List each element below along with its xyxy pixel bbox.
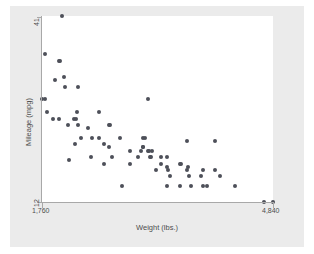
scatter-point	[143, 136, 147, 140]
scatter-point	[45, 110, 49, 114]
y-axis-tick-label-min: 12	[33, 199, 40, 207]
scatter-point	[213, 168, 217, 172]
scatter-point	[90, 136, 94, 140]
scatter-point	[108, 123, 112, 127]
scatter-point	[97, 110, 101, 114]
scatter-point	[97, 136, 101, 140]
y-axis-tick-label-max: 41	[33, 18, 40, 26]
scatter-point	[89, 155, 93, 159]
scatter-point	[139, 149, 143, 153]
scatter-point	[146, 97, 150, 101]
scatter-point	[73, 142, 77, 146]
scatter-point	[213, 139, 217, 143]
scatter-point	[154, 168, 158, 172]
scatter-point	[201, 184, 205, 188]
scatter-point	[205, 184, 209, 188]
scatter-point	[43, 97, 47, 101]
scatter-plot-screenshot: 41 12 1,760 4,840 Mileage (mpg) Weight (…	[0, 0, 314, 254]
scatter-point	[102, 142, 106, 146]
scatter-point	[118, 136, 122, 140]
scatter-point	[159, 162, 163, 166]
scatter-point	[62, 75, 66, 79]
scatter-point	[165, 184, 169, 188]
scatter-point	[233, 184, 237, 188]
x-axis-tick-label-max: 4,840	[262, 207, 280, 214]
scatter-point	[110, 155, 114, 159]
scatter-point	[76, 123, 80, 127]
scatter-point	[58, 59, 62, 63]
scatter-point	[66, 123, 70, 127]
scatter-point	[185, 168, 189, 172]
scatter-point	[128, 162, 132, 166]
scatter-point	[107, 145, 111, 149]
scatter-point	[201, 168, 205, 172]
scatter-point	[179, 162, 183, 166]
y-axis-title: Mileage (mpg)	[25, 98, 33, 146]
scatter-point	[57, 117, 61, 121]
scatter-point	[166, 168, 170, 172]
scatter-point	[136, 155, 140, 159]
scatter-point	[187, 174, 191, 178]
scatter-point	[102, 162, 106, 166]
scatter-point	[159, 155, 163, 159]
scatter-point	[51, 117, 55, 121]
scatter-point	[150, 149, 154, 153]
scatter-point	[185, 139, 189, 143]
scatter-point	[149, 155, 153, 159]
scatter-point	[189, 184, 193, 188]
scatter-point	[168, 174, 172, 178]
x-axis-title: Weight (lbs.)	[0, 224, 314, 232]
scatter-point	[67, 158, 71, 162]
scatter-point	[63, 85, 67, 89]
scatter-point	[53, 78, 57, 82]
scatter-point	[199, 174, 203, 178]
x-axis-tick-label-min: 1,760	[32, 207, 50, 214]
y-axis-line	[41, 16, 42, 203]
scatter-point	[79, 136, 83, 140]
scatter-point	[165, 155, 169, 159]
scatter-point	[75, 110, 79, 114]
plot-region	[42, 16, 273, 202]
x-axis-line	[42, 202, 274, 203]
scatter-point	[178, 184, 182, 188]
scatter-point	[128, 149, 132, 153]
plot-markers-layer	[42, 16, 273, 202]
scatter-point	[76, 85, 80, 89]
scatter-point	[120, 184, 124, 188]
scatter-point	[218, 174, 222, 178]
scatter-point	[43, 52, 47, 56]
scatter-point	[86, 126, 90, 130]
scatter-point	[74, 117, 78, 121]
scatter-point	[60, 14, 64, 18]
